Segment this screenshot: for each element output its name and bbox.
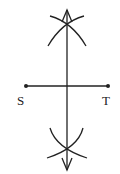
arc-top-from-s [50,16,86,46]
label-s: S [17,93,24,108]
arc-top-from-t [48,16,84,46]
point-s [24,84,28,88]
point-t [106,84,110,88]
label-t: T [102,93,110,108]
construction-diagram: S T [0,0,120,174]
